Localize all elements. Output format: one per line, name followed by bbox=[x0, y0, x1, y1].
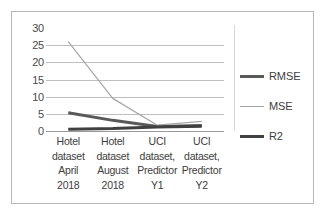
y-axis-tick-label: 25 bbox=[32, 40, 44, 50]
x-axis-tick-label: Hotel dataset August 2018 bbox=[91, 134, 136, 198]
legend-swatch-rmse bbox=[240, 75, 264, 78]
x-axis-tick-label: Hotel dataset April 2018 bbox=[46, 134, 91, 198]
x-axis-tick-label: UCI dataset, Predictor Y1 bbox=[135, 134, 180, 198]
series-line-r2 bbox=[68, 126, 202, 129]
legend-item-r2[interactable]: R2 bbox=[240, 128, 283, 144]
legend-item-mse[interactable]: MSE bbox=[240, 98, 293, 114]
series-lines bbox=[46, 28, 224, 131]
series-line-mse bbox=[68, 42, 202, 125]
legend-swatch-mse bbox=[240, 106, 264, 107]
legend-swatch-r2 bbox=[240, 135, 264, 138]
y-axis-tick-label: 0 bbox=[38, 126, 44, 136]
legend-item-rmse[interactable]: RMSE bbox=[240, 68, 300, 84]
series-line-rmse bbox=[68, 113, 202, 127]
gridlines-and-series bbox=[46, 28, 224, 131]
y-axis-tick-label: 10 bbox=[32, 92, 44, 102]
legend-label: R2 bbox=[269, 131, 283, 142]
y-axis-tick-label: 5 bbox=[38, 109, 44, 119]
legend-label: RMSE bbox=[269, 71, 300, 82]
y-axis-tick-label: 15 bbox=[32, 75, 44, 85]
gridline bbox=[46, 131, 224, 132]
legend-divider bbox=[234, 25, 235, 131]
y-axis-tick-label: 30 bbox=[32, 23, 44, 33]
legend-label: MSE bbox=[269, 101, 293, 112]
y-axis: 302520151050 bbox=[20, 23, 44, 126]
plot-area: 302520151050 Hotel dataset April 2018Hot… bbox=[12, 12, 313, 203]
x-axis-tick-label: UCI dataset, Predictor Y2 bbox=[180, 134, 225, 198]
x-axis-categories: Hotel dataset April 2018Hotel dataset Au… bbox=[46, 134, 224, 198]
chart-container: 302520151050 Hotel dataset April 2018Hot… bbox=[11, 11, 314, 204]
chart-legend: RMSEMSER2 bbox=[240, 68, 310, 146]
y-axis-tick-label: 20 bbox=[32, 57, 44, 67]
